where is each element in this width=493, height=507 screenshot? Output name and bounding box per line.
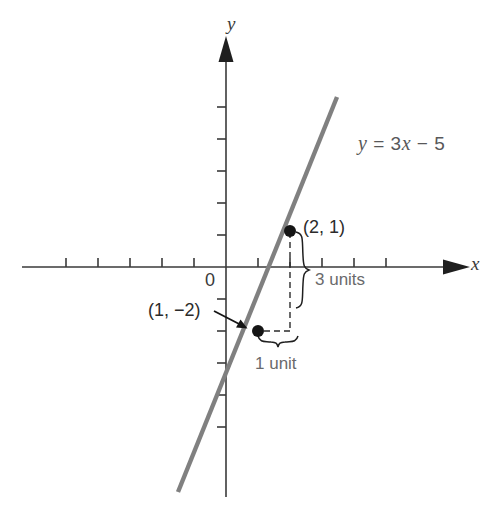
equation-label: y = 3x − 5 [358, 133, 445, 153]
x-axis-label: x [471, 254, 479, 273]
equation-minus: − [411, 133, 434, 154]
origin-label: 0 [205, 271, 215, 289]
line-graph [178, 97, 337, 492]
y-axis-label: y [227, 14, 235, 33]
y-axis-arrow-icon [219, 36, 234, 62]
x-axis-arrow-icon [443, 260, 470, 275]
point-label-2-1: (2, 1) [303, 218, 345, 236]
equation-coefficient: 3 [391, 133, 402, 154]
graph-canvas [0, 0, 493, 507]
point-markers [252, 225, 296, 337]
x-axis [22, 260, 470, 275]
point-leader-arrow [214, 311, 248, 329]
equation-variable: x [402, 132, 411, 154]
rise-units-label: 3 units [315, 271, 365, 288]
run-brace [258, 336, 298, 347]
point-marker-1-minus2 [252, 325, 264, 337]
rise-brace [296, 232, 309, 308]
equation-lhs: y [358, 132, 367, 154]
point-label-1-minus2: (1, −2) [148, 301, 201, 319]
equation-constant: 5 [434, 133, 445, 154]
graph-figure: y x 0 y = 3x − 5 (2, 1) (1, −2) 3 units … [0, 0, 493, 507]
run-units-label: 1 unit [255, 355, 297, 372]
equation-equals: = [367, 133, 390, 154]
point-marker-2-1 [284, 225, 296, 237]
